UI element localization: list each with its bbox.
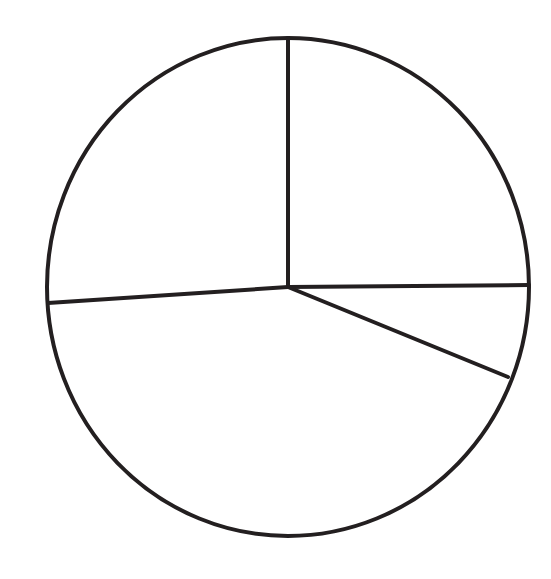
pie-chart-svg [0,0,551,579]
pie-chart-figure [0,0,551,579]
pie-center-point [288,287,289,288]
pie-slice-1[interactable] [288,38,529,287]
pie-slice-4[interactable] [48,38,288,303]
pie-divider-right[interactable] [288,285,529,287]
